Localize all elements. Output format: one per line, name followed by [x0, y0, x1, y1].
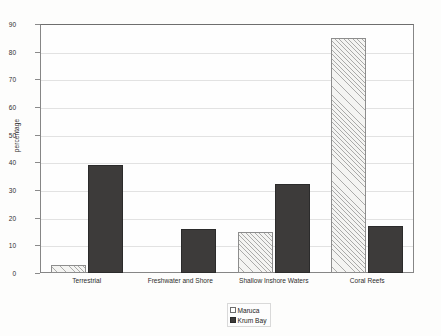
- bar-series-layer: [40, 24, 414, 273]
- y-axis-tick-label: 0: [0, 270, 16, 277]
- x-axis-tick-label: Freshwater and Shore: [134, 277, 228, 284]
- bar-group: [134, 24, 228, 273]
- bar-krum-bay: [368, 226, 403, 273]
- y-axis-tick-label: 30: [0, 187, 16, 194]
- x-axis-tick-label: Terrestrial: [40, 277, 134, 284]
- y-axis-tick-mark: [35, 107, 40, 108]
- x-axis-tick-labels: TerrestrialFreshwater and ShoreShallow I…: [40, 277, 414, 291]
- filled-square-icon: [230, 317, 236, 323]
- y-axis-tick-mark: [35, 162, 40, 163]
- bar-krum-bay: [181, 229, 216, 273]
- y-axis-tick-label: 60: [0, 104, 16, 111]
- y-axis-tick-label: 80: [0, 48, 16, 55]
- chart-legend: Maruca Krum Bay: [227, 303, 271, 327]
- scanned-page: percentage TerrestrialFreshwater and Sho…: [0, 0, 441, 336]
- legend-item-krum-bay: Krum Bay: [230, 315, 266, 325]
- bar-maruca: [331, 38, 366, 273]
- hatched-square-icon: [230, 307, 236, 313]
- x-axis-tick-label: Shallow Inshore Waters: [227, 277, 321, 284]
- y-axis-tick-label: 20: [0, 214, 16, 221]
- legend-item-maruca: Maruca: [230, 305, 266, 315]
- y-axis-tick-mark: [35, 135, 40, 136]
- y-axis-tick-mark: [35, 24, 40, 25]
- y-axis-tick-mark: [35, 218, 40, 219]
- bar-krum-bay: [275, 184, 310, 273]
- bar-maruca: [238, 232, 273, 274]
- bar-maruca: [51, 265, 86, 273]
- bar-group: [321, 24, 415, 273]
- y-axis-tick-label: 90: [0, 21, 16, 28]
- y-axis-tick-mark: [35, 79, 40, 80]
- y-axis-tick-mark: [35, 245, 40, 246]
- bar-krum-bay: [88, 165, 123, 273]
- y-axis-tick-label: 70: [0, 76, 16, 83]
- y-axis-tick-mark: [35, 52, 40, 53]
- legend-label: Maruca: [238, 307, 260, 314]
- legend-label: Krum Bay: [238, 317, 267, 324]
- y-axis-tick-mark: [35, 190, 40, 191]
- y-axis-tick-label: 50: [0, 131, 16, 138]
- bar-group: [227, 24, 321, 273]
- y-axis-tick-mark: [35, 273, 40, 274]
- y-axis-tick-label: 40: [0, 159, 16, 166]
- bar-chart-figure: percentage TerrestrialFreshwater and Sho…: [0, 0, 441, 336]
- x-axis-tick-label: Coral Reefs: [321, 277, 415, 284]
- bar-group: [40, 24, 134, 273]
- y-axis-tick-label: 10: [0, 242, 16, 249]
